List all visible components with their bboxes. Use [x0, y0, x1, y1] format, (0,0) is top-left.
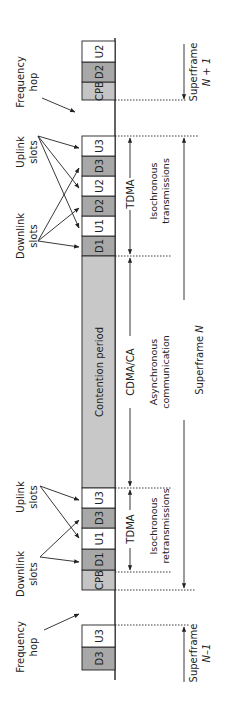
slot-label: U3	[94, 629, 105, 643]
superframe-next-label-2: N + 1	[201, 58, 212, 87]
superframe-current-label-n: N	[194, 325, 205, 333]
frequency-hop-bottom-label-2: hop	[28, 638, 39, 657]
slot-label: CPB	[94, 570, 105, 590]
slot-label: D3	[94, 159, 105, 173]
slot-label: U3	[94, 491, 105, 505]
slot-label: D3	[94, 511, 105, 525]
uplink-slots-bottom-label-2: slots	[28, 485, 39, 508]
isochronous-transmissions-label: Isochronous	[148, 162, 159, 219]
slot-label: U2	[94, 179, 105, 193]
slot-label: CPB	[94, 81, 105, 101]
asynchronous-communication-label: Asynchronous	[148, 339, 159, 406]
slot-d3: D3	[82, 647, 115, 670]
slot-u3: U3	[82, 136, 115, 156]
slot-d1: D1	[82, 236, 115, 256]
downlink-slots-top-label: Downlink	[15, 213, 26, 259]
slot-d3: D3	[82, 508, 115, 528]
uplink-slots-top-label-2: slots	[28, 140, 39, 163]
asynchronous-communication-label-2: communication	[160, 335, 171, 408]
superframe-current-head-slots: CPB D1 U1 D3 U3	[82, 488, 115, 590]
slot-d2: D2	[82, 62, 115, 82]
slot-label: D3	[94, 651, 105, 665]
uplink-slots-top-label: Uplink	[15, 136, 26, 168]
contention-period: Contention period	[82, 256, 115, 488]
isochronous-transmissions-label-2: transmissions	[160, 158, 171, 224]
frequency-hop-top-label-2: hop	[28, 73, 39, 92]
downlink-slots-bottom-label-2: slots	[28, 562, 39, 585]
slot-d2: D2	[82, 196, 115, 216]
left-labels: Frequency hop Uplink slots Downlink slot…	[15, 56, 39, 673]
frequency-hop-bottom-label: Frequency	[15, 621, 26, 673]
superframe-current-label: Superframe N	[194, 325, 205, 395]
superframe-prev-slots: D3 U3	[82, 625, 115, 670]
isochronous-retransmissions-label: Isochronous	[148, 497, 159, 554]
pointer-arrows	[38, 98, 79, 630]
tdma-top-label: TDMA	[125, 179, 136, 209]
superframe-next-slots: CPB D2 U2	[82, 41, 115, 101]
tdma-bottom-label: TDMA	[125, 514, 136, 544]
frequency-hop-top-label: Frequency	[15, 56, 26, 108]
superframe-next-label: Superframe	[188, 43, 199, 102]
slot-label: D2	[94, 199, 105, 213]
downlink-slots-bottom-label: Downlink	[15, 551, 26, 597]
slot-u1: U1	[82, 216, 115, 236]
slot-label: U2	[94, 45, 105, 59]
slot-label: D1	[94, 552, 105, 566]
slot-label: U1	[94, 532, 105, 546]
downlink-slots-top-label-2: slots	[28, 224, 39, 247]
slot-u3: U3	[82, 488, 115, 508]
slot-cpb: CPB	[82, 570, 115, 590]
slot-u3: U3	[82, 625, 115, 647]
superframe-diagram: CPB D2 U2 D1 U1 D2 U2 D3	[0, 0, 228, 718]
slot-u2: U2	[82, 41, 115, 62]
slot-u2: U2	[82, 176, 115, 196]
superframe-prev-label: Superframe	[188, 624, 199, 683]
slot-label: D2	[94, 65, 105, 79]
slot-d1: D1	[82, 549, 115, 570]
slot-cpb: CPB	[82, 81, 115, 101]
slot-label: U1	[94, 219, 105, 233]
contention-label: Contention period	[94, 327, 105, 417]
slot-label: U3	[94, 139, 105, 153]
slot-label: D1	[94, 239, 105, 253]
isochronous-retransmissions-label-2: retransmissions	[160, 488, 171, 563]
right-labels: TDMA CDMA/CA TDMA Isochronous transmissi…	[125, 43, 212, 683]
superframe-prev-label-2: N–1	[201, 644, 212, 663]
slot-u1: U1	[82, 528, 115, 549]
cdma-ca-label: CDMA/CA	[125, 348, 136, 396]
superframe-current-tail-slots: D1 U1 D2 U2 D3 U3	[82, 136, 115, 256]
superframe-current-label-word: Superframe	[194, 336, 205, 395]
slot-d3: D3	[82, 156, 115, 176]
uplink-slots-bottom-label: Uplink	[15, 481, 26, 513]
